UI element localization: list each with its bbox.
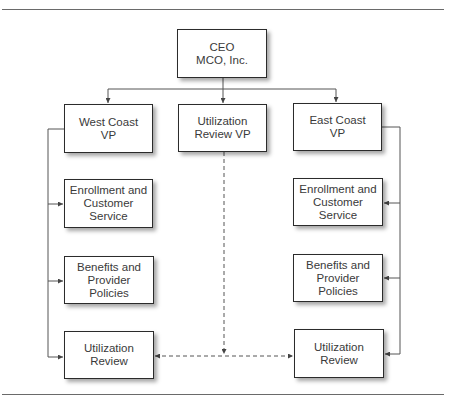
node-east-enrollment-customer-service: Enrollment and Customer Service xyxy=(293,178,383,226)
node-east-coast-vp: East Coast VP xyxy=(293,103,382,151)
node-east-utilization-review: Utilization Review xyxy=(294,329,384,378)
node-west-utilization-review: Utilization Review xyxy=(64,331,154,379)
node-east-benefits-provider-policies: Benefits and Provider Policies xyxy=(293,254,383,302)
node-west-benefits-provider-policies: Benefits and Provider Policies xyxy=(64,256,154,304)
node-west-coast-vp: West Coast VP xyxy=(64,104,153,153)
node-west-enrollment-customer-service: Enrollment and Customer Service xyxy=(64,179,153,228)
node-utilization-review-vp: Utilization Review VP xyxy=(178,104,267,152)
node-ceo: CEO MCO, Inc. xyxy=(177,29,267,78)
